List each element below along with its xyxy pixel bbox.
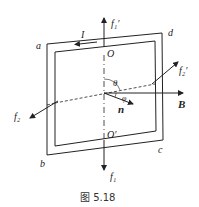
force-label-f1: f₁ — [110, 171, 116, 182]
corner-label-d: d — [168, 27, 174, 38]
angle-label-phi: φ — [122, 94, 127, 103]
force-label-f2-prime: f₂′ — [179, 65, 188, 76]
field-label-b: B — [177, 98, 185, 110]
angle-phi-arc — [115, 93, 116, 97]
figure-caption: 图 5.18 — [80, 192, 115, 203]
current-arrow — [75, 42, 97, 45]
corner-label-c: c — [158, 144, 163, 155]
coil-force-diagram: a d b c I O O′ f₁′ f₁ f₂′ f₂ θ φ n B 图 5… — [0, 0, 199, 207]
force-label-f1-prime: f₁′ — [111, 18, 120, 29]
force-f2-prime-arrow — [152, 62, 178, 84]
normal-label-n: n — [118, 103, 124, 115]
corner-label-b: b — [40, 158, 45, 169]
angle-label-theta: θ — [113, 78, 118, 88]
axis-label-o-prime: O′ — [107, 129, 117, 140]
corner-label-a: a — [36, 40, 41, 51]
force-f2-arrow — [30, 101, 58, 118]
angle-theta-arc — [104, 79, 120, 90]
axis-label-o: O — [107, 48, 114, 59]
current-label: I — [80, 29, 85, 40]
force-label-f2: f₂ — [14, 111, 21, 122]
